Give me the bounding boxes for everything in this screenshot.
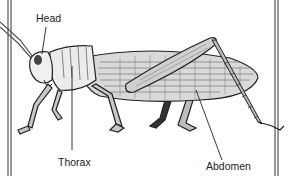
abdomen-leader-line xyxy=(196,90,222,160)
label-abdomen: Abdomen xyxy=(206,160,251,172)
head-leader-line xyxy=(42,27,46,54)
head-shape xyxy=(30,52,53,88)
label-thorax: Thorax xyxy=(58,156,91,168)
antenna xyxy=(0,22,33,59)
label-head: Head xyxy=(36,12,61,24)
grasshopper-diagram: Head Thorax Abdomen xyxy=(0,0,295,176)
thorax-shape xyxy=(50,46,96,91)
grasshopper-illustration xyxy=(0,0,295,176)
front-legs xyxy=(18,84,124,134)
